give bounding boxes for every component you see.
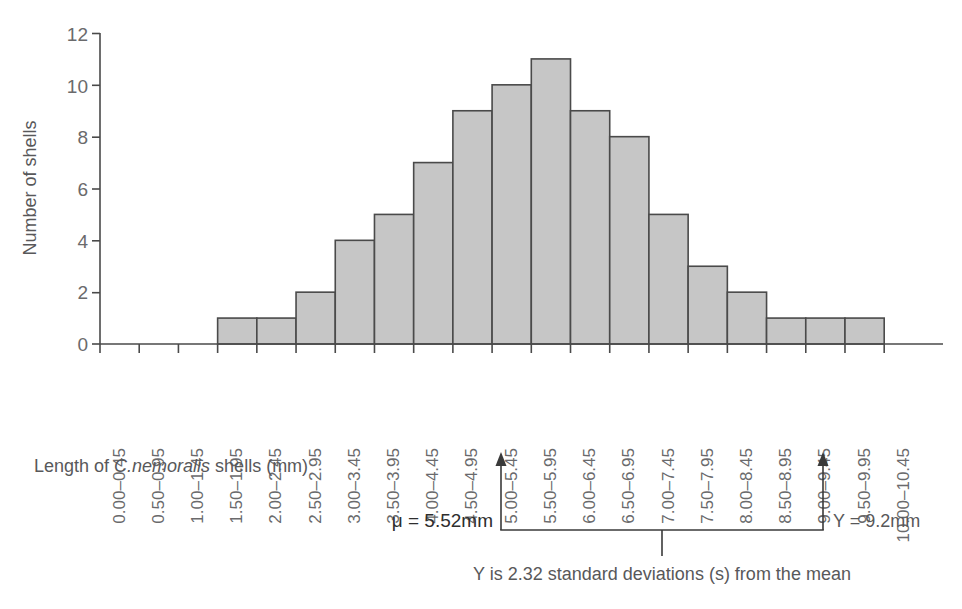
- x-axis-title-after: shells (mm): [210, 456, 308, 476]
- histogram-bar: [218, 318, 257, 344]
- y-tick-label: 8: [77, 127, 88, 148]
- x-axis-category-label: 8.00–8.45: [737, 448, 756, 524]
- y-tick-label: 0: [77, 334, 88, 355]
- histogram-bar: [531, 59, 570, 344]
- bars-group: [218, 59, 885, 344]
- mean-annotation-label: μ = 5.52mm: [392, 510, 493, 531]
- x-axis-title-species: C.nemoralis: [114, 456, 210, 476]
- histogram-bar: [571, 111, 610, 344]
- x-axis-category-label: 6.50–6.95: [619, 448, 638, 524]
- x-axis-title-before: Length of: [34, 456, 114, 476]
- x-axis-category-label: 8.50–8.95: [776, 448, 795, 524]
- x-axis-category-label: 6.00–6.45: [580, 448, 599, 524]
- histogram-bar: [492, 85, 531, 344]
- histogram-bar: [688, 266, 727, 344]
- x-axis-title: Length of C.nemoralis shells (mm): [34, 456, 308, 476]
- x-axis-category-label: 3.00–3.45: [345, 448, 364, 524]
- y-tick-label: 10: [67, 76, 88, 97]
- histogram-bar: [649, 214, 688, 344]
- histogram-bar: [453, 111, 492, 344]
- histogram-bar: [727, 292, 766, 344]
- y-tick-label: 2: [77, 282, 88, 303]
- annotation-caption: Y is 2.32 standard deviations (s) from t…: [473, 564, 851, 584]
- histogram-bar: [257, 318, 296, 344]
- y-axis-tick-labels: 12 10 8 6 4 2 0: [67, 24, 89, 355]
- x-axis-category-label: 2.50–2.95: [306, 448, 325, 524]
- x-axis-category-label: 5.00–5.45: [502, 448, 521, 524]
- chart-canvas: Number of shells 12 10 8 6 4 2 0: [0, 0, 962, 609]
- histogram-bar: [767, 318, 806, 344]
- histogram-bar: [296, 292, 335, 344]
- histogram-bar: [610, 137, 649, 344]
- histogram-bar: [414, 163, 453, 344]
- value-annotation-label: Y = 9.2mm: [833, 511, 920, 531]
- histogram-bar: [806, 318, 845, 344]
- x-axis-ticks: [100, 344, 884, 353]
- histogram-bar: [845, 318, 884, 344]
- histogram-bar: [374, 214, 413, 344]
- histogram-figure: Number of shells 12 10 8 6 4 2 0: [0, 0, 962, 609]
- y-axis-title: Number of shells: [20, 120, 40, 255]
- x-axis-category-label: 5.50–5.95: [541, 448, 560, 524]
- y-tick-label: 4: [77, 231, 88, 252]
- x-axis-category-label: 7.00–7.45: [659, 448, 678, 524]
- y-tick-label: 6: [77, 179, 88, 200]
- y-tick-label: 12: [67, 24, 88, 45]
- histogram-bar: [335, 240, 374, 344]
- y-axis-ticks: [92, 34, 100, 345]
- x-axis-category-label: 7.50–7.95: [698, 448, 717, 524]
